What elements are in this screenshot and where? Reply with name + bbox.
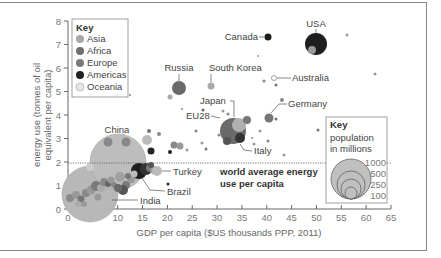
- svg-text:250: 250: [370, 179, 386, 190]
- svg-text:China: China: [105, 124, 131, 135]
- bubble-germany: [265, 114, 274, 123]
- svg-text:South Korea: South Korea: [209, 62, 263, 73]
- y-tick-label: 8: [56, 16, 61, 27]
- svg-text:Italy: Italy: [254, 145, 272, 156]
- legend-size: Key population in millions 1000 500 250 …: [326, 117, 387, 203]
- svg-text:Turkey: Turkey: [173, 166, 202, 177]
- legend-swatch-europe: [76, 59, 84, 67]
- bubble-australia: [272, 76, 277, 81]
- x-tick-label: 60: [361, 212, 372, 223]
- svg-text:Australia: Australia: [292, 72, 330, 83]
- bubble-canada: [265, 34, 272, 41]
- svg-text:Brazil: Brazil: [167, 186, 191, 197]
- legend-label-europe: Europe: [87, 57, 118, 68]
- svg-text:Canada: Canada: [225, 31, 259, 42]
- average-label: world average energy: [219, 166, 318, 177]
- bubble-turkey: [152, 166, 162, 176]
- legend-swatch-oceania: [76, 83, 84, 91]
- bubble-italy: [235, 133, 245, 143]
- svg-text:EU28: EU28: [186, 110, 210, 121]
- svg-text:100: 100: [370, 190, 386, 201]
- y-tick-label: 1: [56, 180, 61, 191]
- y-tick-label: 0: [56, 204, 61, 215]
- x-ticks: 05101520253035404550556065: [65, 205, 396, 223]
- y-tick-label: 6: [56, 63, 61, 74]
- svg-text:500: 500: [370, 168, 386, 179]
- x-tick-label: 15: [137, 212, 148, 223]
- bubble-chart: energy use (tonnes of oil equivalent per…: [0, 0, 441, 258]
- legend-label-asia: Asia: [87, 33, 106, 44]
- y-tick-label: 5: [56, 86, 61, 97]
- bubble-south-korea: [208, 83, 215, 90]
- svg-text:population: population: [330, 132, 374, 143]
- svg-text:Germany: Germany: [288, 98, 327, 109]
- x-tick-label: 10: [112, 212, 123, 223]
- legend-swatch-americas: [76, 71, 84, 79]
- svg-text:in millions: in millions: [330, 143, 372, 154]
- y-axis-title: energy use (tonnes of oil equivalent per…: [31, 63, 53, 167]
- x-tick-label: 30: [212, 212, 223, 223]
- svg-text:Key: Key: [330, 119, 348, 130]
- y-tick-label: 3: [56, 133, 61, 144]
- x-tick-label: 65: [386, 212, 397, 223]
- x-tick-label: 45: [286, 212, 297, 223]
- x-axis-title: GDP per capita ($US thousands PPP, 2011): [137, 227, 322, 238]
- svg-text:Japan: Japan: [200, 95, 226, 106]
- svg-text:USA: USA: [306, 18, 326, 29]
- svg-text:1000: 1000: [365, 157, 386, 168]
- svg-text:India: India: [140, 195, 161, 206]
- x-tick-label: 20: [162, 212, 173, 223]
- legend-label-americas: Americas: [87, 69, 127, 80]
- legend-swatch-asia: [76, 35, 84, 43]
- x-tick-label: 55: [336, 212, 347, 223]
- svg-text:equivalent per capita): equivalent per capita): [42, 70, 53, 161]
- bubble-china: [90, 134, 146, 190]
- x-tick-label: 35: [237, 212, 248, 223]
- bubble-russia: [172, 81, 186, 95]
- svg-text:energy use (tonnes of oil: energy use (tonnes of oil: [31, 63, 42, 167]
- legend-label-africa: Africa: [87, 45, 112, 56]
- x-tick-label: 25: [187, 212, 198, 223]
- legend-region: Key AsiaAfricaEuropeAmericasOceania: [72, 19, 128, 97]
- svg-text:Key: Key: [76, 22, 94, 33]
- x-tick-label: 50: [311, 212, 322, 223]
- y-tick-label: 7: [56, 39, 61, 50]
- x-tick-label: 40: [261, 212, 272, 223]
- svg-text:use per capita: use per capita: [220, 178, 285, 189]
- legend-label-oceania: Oceania: [87, 81, 123, 92]
- svg-text:Russia: Russia: [164, 62, 194, 73]
- legend-swatch-africa: [76, 47, 84, 55]
- y-tick-label: 2: [56, 157, 61, 168]
- y-tick-label: 4: [56, 110, 61, 121]
- bubble-usa: [305, 33, 327, 55]
